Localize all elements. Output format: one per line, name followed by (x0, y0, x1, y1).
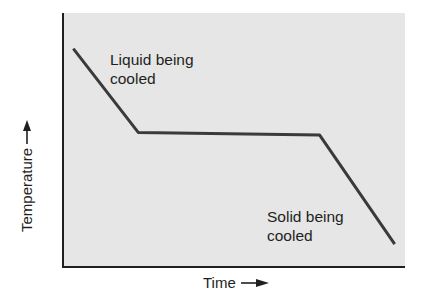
liquid-annotation-line1: Liquid being (110, 50, 194, 69)
x-axis-label-text: Time (203, 274, 236, 291)
solid-annotation: Solid being cooled (267, 207, 344, 245)
arrow-right-icon (22, 119, 32, 145)
y-axis-label-text: Temperature (18, 148, 35, 232)
liquid-annotation: Liquid being cooled (110, 50, 194, 88)
solid-annotation-line1: Solid being (267, 207, 344, 226)
cooling-curve-chart (0, 0, 431, 305)
solid-annotation-line2: cooled (267, 226, 344, 245)
liquid-annotation-line2: cooled (110, 69, 194, 88)
arrow-right-icon (240, 278, 270, 288)
x-axis-label: Time (203, 274, 270, 291)
y-axis-label: Temperature (18, 119, 35, 232)
